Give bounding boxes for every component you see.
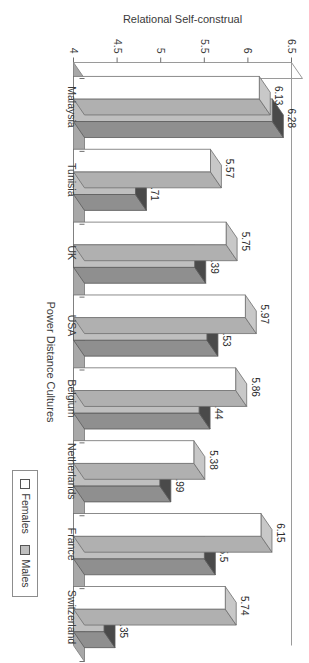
bar-females-belgium[interactable] (73, 367, 246, 406)
value-axis-tick-label: 6.5 (286, 38, 298, 53)
bar-side-face (73, 340, 217, 356)
bar-side-face (73, 244, 237, 260)
bar-females-malaysia[interactable] (73, 76, 270, 115)
bar-value-label: 5.97 (259, 304, 270, 324)
category-axis-label: Malaysia (65, 86, 77, 128)
legend-swatch-males[interactable] (20, 545, 29, 554)
bar-side-face (73, 121, 283, 137)
bar-chart-svg: 6.565.554.54Relational Self-construal6.2… (0, 0, 309, 663)
legend-label-males: Males (19, 559, 31, 587)
rotated-chart-stage: 6.565.554.54Relational Self-construal6.2… (0, 0, 309, 663)
category-axis-label: USA (65, 314, 77, 336)
bar-front-face (73, 367, 235, 390)
category-axis-label: France (65, 527, 77, 560)
category-axis-label: Netherlands (65, 443, 77, 500)
bar-side-face (73, 171, 221, 187)
bar-value-label: 5.57 (224, 158, 235, 178)
bar-front-face (73, 586, 225, 609)
chart-legend: FemalesMales (12, 470, 37, 596)
bar-front-face (73, 294, 245, 317)
bar-side-face (73, 98, 270, 114)
legend-label-females: Females (19, 493, 31, 533)
value-axis-tick-label: 5.5 (198, 38, 210, 53)
category-axis-label: Tunisia (65, 163, 77, 197)
bar-side-face (73, 485, 170, 501)
bar-front-face (73, 76, 259, 99)
bar-value-label: 5.74 (239, 596, 250, 616)
bar-side-face (73, 390, 246, 406)
bar-side-face (73, 317, 256, 333)
bar-front-face (73, 513, 260, 536)
bar-front-face (73, 222, 226, 245)
bar-front-face (73, 149, 210, 172)
value-axis-tick-label: 5 (155, 47, 167, 53)
chart-root: 6.565.554.54Relational Self-construal6.2… (0, 0, 309, 663)
bar-value-label: 5.86 (249, 377, 260, 397)
bar-side-face (73, 558, 215, 574)
value-axis-title: Relational Self-construal (122, 12, 241, 24)
bar-females-france[interactable] (73, 513, 271, 552)
bar-value-label: 6.15 (274, 523, 285, 543)
bar-value-label: 6.13 (273, 85, 284, 105)
bar-females-usa[interactable] (73, 294, 256, 333)
bar-side-face (73, 463, 204, 479)
bar-females-netherlands[interactable] (73, 440, 204, 479)
bar-value-label: 5.75 (240, 231, 251, 251)
bar-value-label: 5.38 (207, 450, 218, 470)
value-axis-tick-label: 6 (242, 47, 254, 53)
bar-value-label: 6.28 (286, 108, 297, 128)
bar-females-switzerland[interactable] (73, 586, 236, 625)
category-axis-label: UK (65, 245, 77, 260)
bar-side-face (73, 194, 146, 210)
bar-front-face (73, 440, 193, 463)
bar-side-face (73, 609, 236, 625)
value-axis-tick-label: 4.5 (111, 38, 123, 53)
bar-side-face (73, 413, 210, 429)
category-axis-title: Power Distance Cultures (44, 301, 56, 423)
bar-females-tunisia[interactable] (73, 149, 221, 188)
category-axis-label: Switzerland (65, 589, 77, 643)
bar-side-face (73, 536, 271, 552)
value-axis-tick-label: 4 (68, 47, 80, 53)
legend-swatch-females[interactable] (20, 479, 29, 488)
category-axis-label: Belgium (65, 379, 77, 417)
bar-side-face (73, 267, 205, 283)
bar-females-uk[interactable] (73, 222, 237, 261)
